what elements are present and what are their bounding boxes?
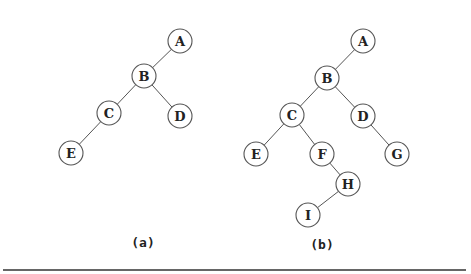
node-label: A	[174, 34, 186, 49]
edge-H-I	[317, 191, 338, 207]
tree-node-A: A	[168, 29, 192, 53]
binary-tree-figure: ABCDE(a)ABCDEFGHI(b)	[0, 0, 471, 274]
edge-B-C	[117, 85, 136, 105]
tree-node-F: F	[310, 142, 334, 166]
tree-node-C: C	[280, 103, 304, 127]
tree-node-G: G	[385, 142, 409, 166]
horizontal-rules	[3, 1, 468, 270]
edge-F-H	[330, 163, 340, 175]
node-label: G	[391, 147, 402, 162]
tree-node-E: E	[244, 142, 268, 166]
edge-C-E	[264, 124, 284, 145]
edge-B-D	[335, 87, 354, 108]
tree-node-D: D	[351, 104, 375, 128]
node-label: B	[139, 69, 150, 84]
edge-B-C	[300, 87, 319, 107]
edge-C-E	[79, 122, 100, 145]
node-label: B	[322, 71, 333, 86]
node-label: E	[251, 147, 261, 162]
node-label: I	[305, 208, 311, 223]
tree-node-A: A	[351, 29, 375, 53]
node-label: H	[342, 177, 354, 192]
edge-A-B	[153, 49, 172, 67]
tree-node-E: E	[59, 141, 83, 165]
tree-a: ABCDE(a)	[59, 29, 192, 250]
edge-B-D	[152, 85, 172, 107]
trees: ABCDE(a)ABCDEFGHI(b)	[59, 29, 409, 252]
caption-a: (a)	[131, 235, 154, 250]
node-label: C	[287, 108, 297, 123]
edge-C-F	[299, 125, 314, 145]
node-label: F	[317, 147, 327, 162]
tree-b: ABCDEFGHI(b)	[244, 29, 409, 252]
edge-A-B	[335, 50, 354, 70]
node-label: A	[357, 34, 369, 49]
tree-node-B: B	[132, 64, 156, 88]
node-label: C	[104, 106, 114, 121]
node-label: D	[357, 109, 368, 124]
tree-node-I: I	[296, 203, 320, 227]
node-label: D	[174, 109, 185, 124]
caption-b: (b)	[310, 237, 333, 252]
edge-D-G	[371, 125, 389, 145]
tree-node-H: H	[336, 172, 360, 196]
tree-node-C: C	[97, 101, 121, 125]
tree-node-B: B	[315, 66, 339, 90]
tree-node-D: D	[168, 104, 192, 128]
tree-diagram-canvas: ABCDE(a)ABCDEFGHI(b)	[0, 0, 471, 274]
node-label: E	[66, 146, 76, 161]
